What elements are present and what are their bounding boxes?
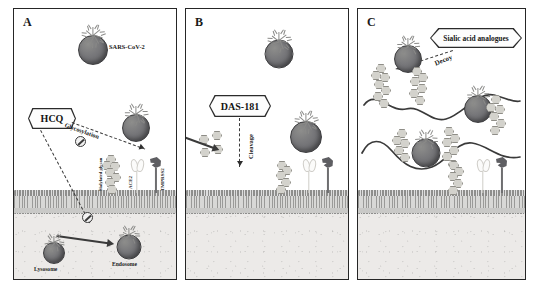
glycan-unit bbox=[449, 146, 459, 155]
cell-membrane-c bbox=[358, 191, 525, 213]
membrane-tail-layer bbox=[14, 196, 176, 208]
decoy-glycan-cluster-3 bbox=[486, 95, 506, 137]
das181-label: DAS-181 bbox=[209, 95, 271, 117]
virus-particle-free-b bbox=[256, 31, 302, 77]
sialylated-glycan-a bbox=[102, 155, 120, 193]
glycan-unit bbox=[486, 103, 496, 112]
tmprss2-protease-c bbox=[495, 157, 509, 193]
ace2-lobe bbox=[482, 158, 492, 172]
virus-body bbox=[265, 40, 294, 69]
label-cleavage: Cleavage bbox=[248, 134, 254, 159]
tmprss2-stalk bbox=[155, 168, 157, 193]
cell-membrane-b bbox=[186, 191, 348, 213]
arrow-head bbox=[107, 239, 115, 248]
arrow-head bbox=[237, 161, 243, 166]
virus-particle-binding-a bbox=[113, 105, 159, 151]
figure-canvas: A SARS-CoV-2 HCQ bbox=[0, 0, 537, 288]
membrane-tail-layer bbox=[186, 196, 348, 208]
virus-body bbox=[122, 114, 150, 142]
virus-body bbox=[290, 121, 322, 153]
panel-c: C Sialic acid analogues Decoy bbox=[357, 8, 526, 280]
cell-membrane-a bbox=[14, 191, 176, 213]
tmprss2-stalk bbox=[501, 168, 503, 193]
ace2-stem bbox=[482, 171, 483, 193]
decoy-glycan-cluster-1 bbox=[371, 64, 391, 108]
decoy-glycan-cluster-2 bbox=[408, 67, 428, 109]
ace2-receptor-b bbox=[302, 159, 316, 193]
label-lysosome: Lysosome bbox=[34, 267, 57, 273]
membrane-head-layer-bottom bbox=[358, 208, 525, 213]
ace2-stem bbox=[308, 171, 309, 193]
dash-shaft bbox=[239, 118, 240, 167]
cleaved-sialic-acid-fragment bbox=[212, 131, 222, 140]
membrane-head-layer-bottom bbox=[14, 208, 176, 213]
das181-callout: DAS-181 bbox=[209, 95, 271, 117]
ace2-lobe bbox=[308, 158, 318, 172]
virus-body bbox=[78, 35, 108, 65]
virus-particle-binding-b bbox=[282, 113, 330, 161]
membrane-tail-layer bbox=[358, 196, 525, 208]
panel-b: B DAS-181 Clea bbox=[185, 8, 349, 280]
inhibition-symbol-glycosylation bbox=[75, 136, 86, 147]
ace2-receptor-c bbox=[476, 159, 490, 193]
panel-a-letter: A bbox=[23, 15, 32, 30]
membrane-head-layer-bottom bbox=[186, 208, 348, 213]
glycan-unit bbox=[417, 84, 427, 93]
label-sialylated-glycan: Sialylated glycan bbox=[99, 158, 104, 191]
label-sars-cov-2: SARS-CoV-2 bbox=[109, 44, 145, 50]
tmprss2-stalk bbox=[327, 168, 329, 193]
virus-body bbox=[117, 235, 142, 260]
label-endosome: Endosome bbox=[112, 262, 137, 268]
ace2-stem bbox=[136, 171, 137, 193]
sialylated-glycan-b bbox=[274, 161, 290, 193]
tmprss2-head bbox=[150, 157, 161, 168]
sialic-acid-analogues-label: Sialic acid analogues bbox=[430, 28, 522, 48]
decoy-glycan-cluster-4 bbox=[392, 129, 412, 165]
tmprss2-head bbox=[322, 157, 333, 168]
inhibition-symbol-endosome bbox=[82, 212, 93, 223]
glycan-unit bbox=[442, 152, 452, 161]
tmprss2-head bbox=[496, 157, 507, 168]
label-ace2: ACE2 bbox=[128, 176, 133, 189]
glycan-unit bbox=[381, 86, 391, 95]
cleaved-sialic-acid-fragment bbox=[200, 148, 210, 157]
panel-a: A SARS-CoV-2 HCQ bbox=[13, 8, 177, 280]
panel-b-letter: B bbox=[195, 15, 203, 30]
glycan-unit bbox=[491, 95, 501, 104]
panel-c-letter: C bbox=[367, 15, 376, 30]
tmprss2-protease-b bbox=[321, 157, 335, 193]
ace2-lobe bbox=[136, 158, 146, 172]
sialylated-glycan-c bbox=[446, 161, 462, 193]
label-tmprss2: TMPRSS2 bbox=[160, 168, 165, 191]
sialic-acid-analogues-callout: Sialic acid analogues bbox=[430, 28, 522, 48]
